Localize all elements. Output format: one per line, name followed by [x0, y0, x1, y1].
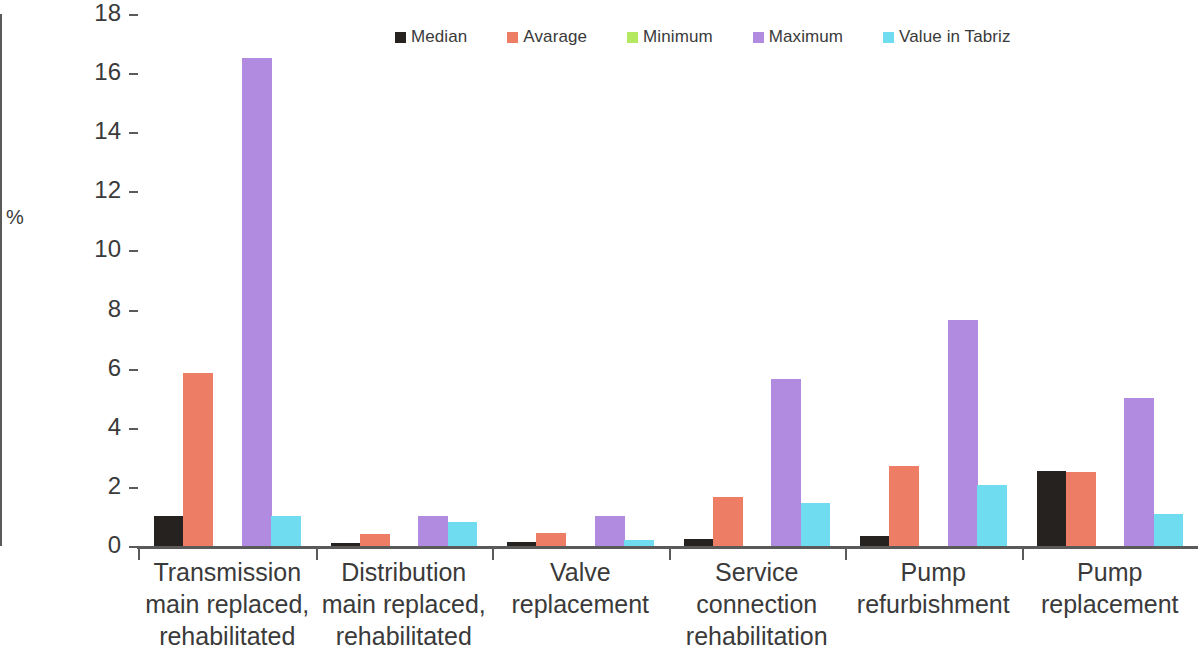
- category-label-line: main replaced,: [141, 588, 314, 620]
- category-label-line: Service: [671, 556, 844, 588]
- bar[interactable]: [771, 379, 801, 546]
- bar[interactable]: [1037, 471, 1067, 546]
- bar[interactable]: [536, 533, 566, 546]
- bar[interactable]: [713, 497, 743, 546]
- bar[interactable]: [801, 503, 831, 546]
- y-axis-tick-label: 12: [69, 176, 121, 204]
- bar[interactable]: [242, 58, 272, 546]
- bar-group: [669, 0, 846, 546]
- bar[interactable]: [1066, 472, 1096, 546]
- y-axis-tick-label: 14: [69, 117, 121, 145]
- category-label-line: rehabilitation: [671, 620, 844, 652]
- x-axis-category-label: Serviceconnectionrehabilitation: [669, 556, 846, 668]
- bar[interactable]: [948, 320, 978, 546]
- bar[interactable]: [889, 466, 919, 546]
- bar[interactable]: [1124, 398, 1154, 546]
- x-axis-category-labels: Transmissionmain replaced,rehabilitatedD…: [139, 556, 1198, 668]
- bar[interactable]: [684, 539, 714, 546]
- bar[interactable]: [1154, 514, 1184, 547]
- y-axis-tick-mark: [129, 310, 138, 312]
- bar[interactable]: [271, 516, 301, 546]
- x-axis-line: [137, 546, 1198, 549]
- x-axis-tick-mark: [138, 549, 140, 560]
- x-axis-tick-mark: [669, 549, 671, 560]
- x-axis-category-label: Distributionmain replaced,rehabilitated: [316, 556, 493, 668]
- y-axis-tick-mark: [129, 14, 138, 16]
- category-label-line: Distribution: [318, 556, 491, 588]
- x-axis-category-label: Transmissionmain replaced,rehabilitated: [139, 556, 316, 668]
- bar-group: [845, 0, 1022, 546]
- bar[interactable]: [595, 516, 625, 546]
- bar[interactable]: [154, 516, 184, 546]
- y-axis-tick-mark: [129, 191, 138, 193]
- bar[interactable]: [183, 373, 213, 546]
- x-axis-tick-mark: [1022, 549, 1024, 560]
- bar[interactable]: [448, 522, 478, 546]
- category-label-line: Valve: [494, 556, 667, 588]
- y-axis-tick-label: 18: [69, 0, 121, 27]
- y-axis-tick-label: 4: [69, 413, 121, 441]
- y-axis-tick-mark: [129, 546, 138, 548]
- y-axis-tick-mark: [129, 428, 138, 430]
- bar-group: [139, 0, 316, 546]
- y-axis-tick-mark: [129, 369, 138, 371]
- x-axis-category-label: Pumprefurbishment: [845, 556, 1022, 668]
- y-axis-tick-label: 10: [69, 235, 121, 263]
- category-label-line: refurbishment: [847, 588, 1020, 620]
- y-axis-tick-label: 0: [69, 531, 121, 559]
- bar-chart: MedianAvarageMinimumMaximumValue in Tabr…: [0, 0, 1198, 668]
- y-axis-tick-label: 16: [69, 58, 121, 86]
- bar[interactable]: [977, 485, 1007, 546]
- category-label-line: rehabilitated: [141, 620, 314, 652]
- category-label-line: Pump: [847, 556, 1020, 588]
- y-axis-tick-mark: [129, 132, 138, 134]
- category-label-line: Pump: [1024, 556, 1197, 588]
- bar[interactable]: [331, 543, 361, 546]
- y-axis-tick-mark: [129, 250, 138, 252]
- x-axis-tick-mark: [845, 549, 847, 560]
- x-axis-tick-mark: [316, 549, 318, 560]
- bar-group: [1022, 0, 1198, 546]
- category-label-line: replacement: [494, 588, 667, 620]
- bar[interactable]: [624, 540, 654, 546]
- x-axis-category-label: Pumpreplacement: [1022, 556, 1198, 668]
- x-axis-tick-mark: [492, 549, 494, 560]
- category-label-line: main replaced,: [318, 588, 491, 620]
- category-label-line: connection: [671, 588, 844, 620]
- bar[interactable]: [418, 516, 448, 546]
- bar[interactable]: [860, 536, 890, 546]
- y-axis-tick-label: 2: [69, 472, 121, 500]
- category-label-line: replacement: [1024, 588, 1197, 620]
- y-axis-tick-label: 6: [69, 354, 121, 382]
- x-axis-category-label: Valvereplacement: [492, 556, 669, 668]
- plot-bars: [139, 0, 1198, 546]
- category-label-line: Transmission: [141, 556, 314, 588]
- bar[interactable]: [507, 542, 537, 546]
- bar-group: [492, 0, 669, 546]
- y-axis-line: [0, 14, 2, 546]
- y-axis-tick-mark: [129, 487, 138, 489]
- y-axis-tick-mark: [129, 73, 138, 75]
- y-axis-tick-label: 8: [69, 295, 121, 323]
- bar-group: [316, 0, 493, 546]
- y-axis-tick-labels: 181614121086420: [55, 0, 121, 560]
- y-axis-title: %: [6, 206, 24, 229]
- category-label-line: rehabilitated: [318, 620, 491, 652]
- bar[interactable]: [360, 534, 390, 546]
